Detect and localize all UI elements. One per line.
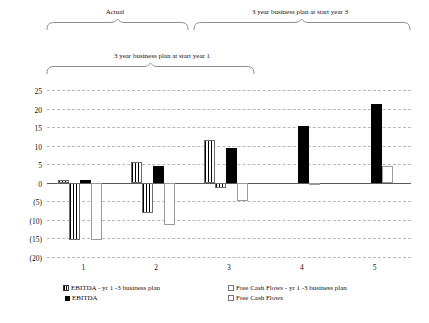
plot-area: 25 20 15 10 5 0 (5) (10) (15) (20)	[47, 90, 411, 257]
category-group-4: 4	[265, 90, 338, 257]
bar-ebitda-plan-3	[204, 140, 215, 183]
bar-fcf-4	[309, 183, 320, 185]
x-axis-tick-2: 2	[154, 263, 158, 272]
annotation-brace-plan-year3	[193, 19, 411, 30]
legend-item-fcf-plan: Free Cash Flows - yr 1 -3 business plan	[228, 284, 347, 292]
y-axis-tick: 10	[35, 142, 43, 151]
y-axis-tick: 0	[38, 179, 42, 188]
black-square-icon	[65, 296, 70, 301]
legend-item-fcf: Free Cash Flows	[228, 294, 283, 302]
x-axis-tick-3: 3	[227, 263, 231, 272]
bar-ebitda-plan-1	[58, 180, 69, 183]
striped-swatch-icon	[63, 285, 69, 291]
y-axis-tick: (5)	[33, 198, 42, 207]
bar-fcf-plan-3	[215, 183, 226, 189]
striped-swatch-icon	[228, 285, 234, 291]
legend-label: Free Cash Flows	[236, 294, 283, 302]
bar-fcf-plan-1	[69, 183, 80, 241]
y-axis-tick: 25	[35, 87, 43, 96]
legend-label: EBITDA - yr 1 -3 business plan	[71, 284, 160, 292]
chart-legend: EBITDA - yr 1 -3 business plan EBITDA Fr…	[0, 283, 429, 313]
y-axis-tick: 20	[35, 105, 43, 114]
white-square-icon	[228, 295, 234, 301]
y-axis-tick: (20)	[30, 254, 43, 263]
annotation-brace-plan-year1	[46, 63, 255, 74]
bar-ebitda-5	[371, 104, 382, 183]
annotation-label-actual: Actual	[55, 8, 175, 16]
gridline: (20)	[47, 257, 411, 258]
category-group-3: 3	[193, 90, 266, 257]
bar-fcf-plan-2	[142, 183, 153, 213]
bar-ebitda-1	[80, 180, 91, 183]
annotation-brace-actual	[46, 19, 189, 30]
legend-item-ebitda-plan: EBITDA - yr 1 -3 business plan	[63, 284, 160, 292]
y-axis-tick: (15)	[30, 235, 43, 244]
bar-ebitda-4	[298, 126, 309, 182]
y-axis-tick: (10)	[30, 216, 43, 225]
legend-label: EBITDA	[72, 294, 98, 302]
bar-fcf-1	[91, 183, 102, 241]
annotation-label-plan-year1: 3 year business plan at start year 1	[52, 52, 272, 60]
category-group-2: 2	[120, 90, 193, 257]
x-axis-tick-1: 1	[82, 263, 86, 272]
x-axis-tick-4: 4	[300, 263, 304, 272]
legend-label: Free Cash Flows - yr 1 -3 business plan	[236, 284, 347, 292]
chart-figure: Actual 3 year business plan at start yea…	[0, 0, 429, 323]
bar-fcf-2	[164, 183, 175, 225]
y-axis-tick: 5	[38, 161, 42, 170]
bar-ebitda-2	[153, 166, 164, 183]
bar-fcf-5	[382, 166, 393, 183]
bar-fcf-3	[237, 183, 248, 201]
x-axis-tick-5: 5	[373, 263, 377, 272]
y-axis-tick: 15	[35, 124, 43, 133]
legend-item-ebitda: EBITDA	[65, 294, 98, 302]
bar-ebitda-plan-2	[131, 162, 142, 183]
category-group-5: 5	[338, 90, 411, 257]
bar-ebitda-3	[226, 148, 237, 183]
annotation-label-plan-year3: 3 year business plan at start year 3	[200, 8, 400, 16]
category-group-1: 1	[47, 90, 120, 257]
